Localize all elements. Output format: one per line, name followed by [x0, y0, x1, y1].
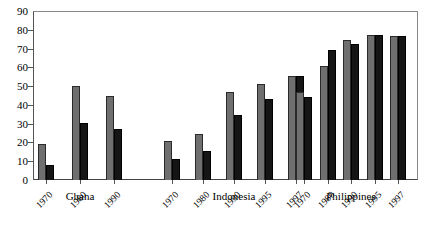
bar-pair [72, 11, 88, 180]
bar [328, 50, 336, 181]
y-tick-label: 60 [17, 62, 28, 73]
x-tick-mark [172, 180, 173, 184]
x-tick-mark [304, 180, 305, 184]
y-tick-mark [28, 124, 33, 125]
bar-pair [38, 11, 54, 180]
bar [72, 86, 80, 180]
x-tick-mark [46, 180, 47, 184]
y-tick-label: 10 [17, 156, 28, 167]
bar [38, 144, 46, 180]
bar-chart: 9080706050403020100 197019801990Ghana197… [0, 0, 428, 241]
y-tick-mark [28, 86, 33, 87]
bar [106, 96, 114, 181]
bar-pair [257, 11, 273, 180]
bar [265, 99, 273, 180]
x-tick-mark [296, 180, 297, 184]
bar-group [38, 11, 140, 180]
y-tick-label: 0 [23, 175, 29, 186]
bar [375, 35, 383, 180]
bar [234, 115, 242, 180]
bar [390, 36, 398, 180]
bar [304, 97, 312, 180]
y-tick-mark [28, 30, 33, 31]
x-tick-mark [203, 180, 204, 184]
bar [343, 40, 351, 180]
bar-pair [343, 11, 359, 180]
y-tick-mark [28, 49, 33, 50]
y-tick-mark [28, 161, 33, 162]
bar [114, 129, 122, 180]
group-label-ghana: Ghana [38, 190, 122, 202]
x-tick-mark [328, 180, 329, 184]
y-tick-label: 30 [17, 118, 28, 129]
bar-pair [320, 11, 336, 180]
bar [80, 123, 88, 180]
x-tick-mark [351, 180, 352, 184]
bar-pair [226, 11, 242, 180]
bar-pair [390, 11, 406, 180]
bar [367, 35, 375, 180]
bar-pair [296, 11, 312, 180]
bar [296, 92, 304, 180]
y-tick-mark [28, 67, 33, 68]
bar [226, 92, 234, 180]
y-tick-label: 90 [17, 6, 28, 17]
group-label-indonesia: Indonesia [164, 190, 304, 202]
y-tick-mark [28, 105, 33, 106]
bar [164, 141, 172, 180]
bar-pair [164, 11, 180, 180]
y-tick-label: 70 [17, 43, 28, 54]
y-tick-label: 50 [17, 81, 28, 92]
bar [351, 44, 359, 180]
plot-area [34, 11, 417, 180]
x-tick-mark [375, 180, 376, 184]
bar-pair [106, 11, 122, 180]
bar [203, 151, 211, 180]
bar [195, 134, 203, 180]
x-tick-mark [80, 180, 81, 184]
bar [46, 165, 54, 180]
x-tick-mark [114, 180, 115, 184]
bar-pair [195, 11, 211, 180]
bar [398, 36, 406, 180]
y-tick-label: 80 [17, 24, 28, 35]
x-tick-mark [265, 180, 266, 184]
bar [257, 84, 265, 180]
group-label-philippines: Philippines [296, 190, 406, 202]
bar-pair [367, 11, 383, 180]
y-tick-label: 40 [17, 99, 28, 110]
x-tick-mark [234, 180, 235, 184]
y-tick-mark [28, 142, 33, 143]
x-tick-mark [398, 180, 399, 184]
bar [172, 159, 180, 180]
bar [288, 76, 296, 180]
bar-group [296, 11, 414, 180]
bar [320, 66, 328, 180]
y-tick-label: 20 [17, 137, 28, 148]
